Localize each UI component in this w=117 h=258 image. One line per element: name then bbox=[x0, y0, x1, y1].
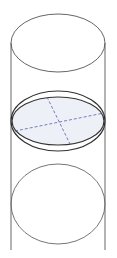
cylinder-bottom-ellipse bbox=[11, 164, 105, 244]
cross-section-disc bbox=[11, 91, 105, 151]
cylinder-top-ellipse bbox=[11, 14, 105, 72]
disc-inner-face bbox=[12, 97, 104, 145]
cylinder-diagram bbox=[0, 0, 117, 258]
